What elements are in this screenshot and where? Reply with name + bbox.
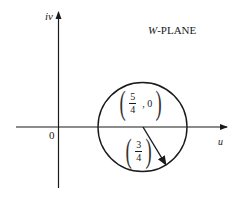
plane-title-rest: -PLANE: [157, 24, 196, 36]
center-numerator: 5: [129, 92, 136, 104]
center-denominator: 4: [130, 104, 135, 115]
horizontal-axis-label: u: [218, 137, 223, 147]
left-paren: (: [126, 134, 132, 168]
plane-title-letter: W: [148, 24, 157, 36]
plane-title: W-PLANE: [148, 25, 196, 36]
circle-center-label: ( 5 4 , 0 ): [117, 86, 165, 120]
right-paren: ): [146, 134, 152, 168]
right-paren: ): [156, 86, 162, 120]
radius-numerator: 3: [135, 140, 142, 152]
radius-denominator: 4: [136, 152, 141, 163]
origin-label: 0: [49, 130, 55, 141]
left-paren: (: [120, 86, 126, 120]
radius-fraction: 3 4: [135, 140, 142, 163]
vertical-axis-label: iv: [45, 11, 53, 22]
circle-radius-label: ( 3 4 ): [123, 134, 155, 168]
center-suffix: , 0: [142, 98, 152, 109]
center-fraction: 5 4: [129, 92, 136, 115]
